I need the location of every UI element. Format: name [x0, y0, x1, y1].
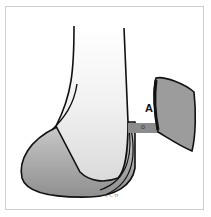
- label-connector: o: [141, 123, 145, 130]
- anatomy-diagram: [0, 0, 211, 217]
- signature: ᄔᄂᄆ: [104, 192, 120, 199]
- fragment: [154, 78, 195, 151]
- label-a: A: [145, 102, 153, 114]
